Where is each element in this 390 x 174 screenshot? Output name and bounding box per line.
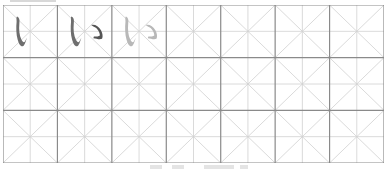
cut-off-header: [10, 0, 56, 2]
footer-caption: [0, 164, 390, 174]
guide-lines: [3, 5, 384, 163]
practice-grid: [3, 5, 384, 163]
